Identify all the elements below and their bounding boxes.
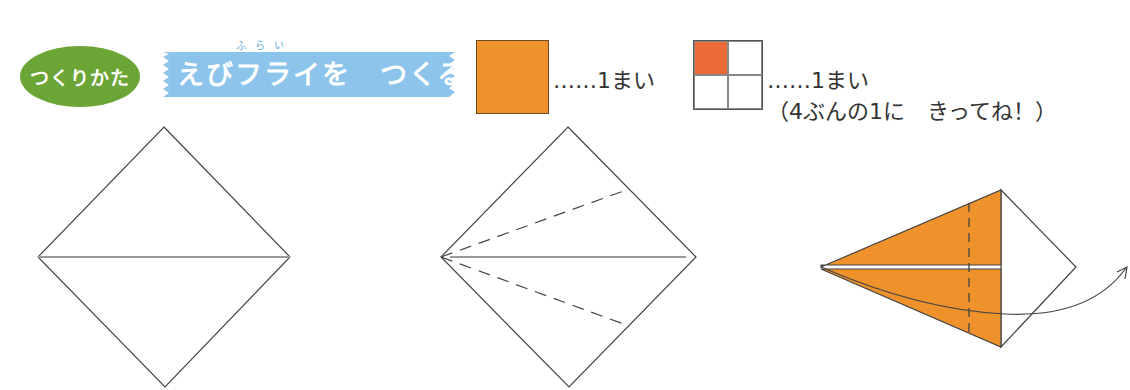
step-3-diagram xyxy=(821,190,1127,347)
step-1-diagram xyxy=(38,127,290,387)
fold-diagrams xyxy=(0,0,1130,390)
step-2-diagram xyxy=(441,127,696,387)
